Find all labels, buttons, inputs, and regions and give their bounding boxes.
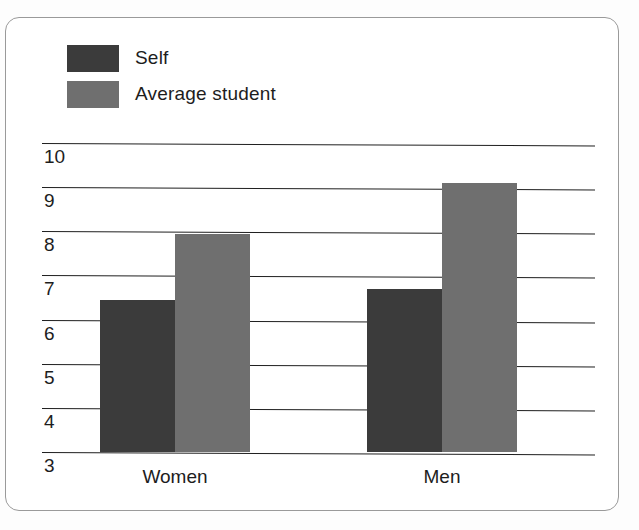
y-axis-tick-label-8: 8 xyxy=(44,235,55,254)
y-axis-tick-label-9: 9 xyxy=(44,191,55,210)
y-axis-tick-label-5: 5 xyxy=(44,368,55,387)
gridline-10 xyxy=(42,143,595,146)
plot-area: 109876543 xyxy=(42,143,595,452)
x-axis-label-women: Women xyxy=(142,466,207,488)
x-axis-label-men: Men xyxy=(424,466,461,488)
bar-men-average-student xyxy=(442,183,517,452)
legend-label-self: Self xyxy=(135,47,169,69)
bar-women-average-student xyxy=(175,234,250,453)
y-axis-tick-label-3: 3 xyxy=(44,456,55,475)
y-axis-tick-label-4: 4 xyxy=(44,412,55,431)
y-axis-tick-label-6: 6 xyxy=(44,324,55,343)
legend-item-average-student: Average student xyxy=(67,76,367,112)
y-axis-tick-label-10: 10 xyxy=(44,147,65,166)
y-axis-tick-label-7: 7 xyxy=(44,279,55,298)
bar-women-self xyxy=(100,300,175,452)
legend-item-self: Self xyxy=(67,40,367,76)
chart-legend: Self Average student xyxy=(67,40,367,112)
bar-men-self xyxy=(367,289,442,452)
legend-label-average-student: Average student xyxy=(135,83,276,105)
legend-swatch-average-student xyxy=(67,81,119,108)
legend-swatch-self xyxy=(67,45,119,72)
scanned-page: Self Average student 109876543 WomenMen xyxy=(0,0,639,530)
